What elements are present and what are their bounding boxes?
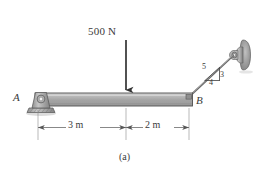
- beam-free-body-figure: 500 N A B 5 3 4 3 m 2 m (a): [0, 0, 261, 175]
- point-label-a: A: [13, 92, 20, 103]
- beam-ab: [35, 93, 193, 106]
- dimension-label-right: 2 m: [145, 120, 160, 130]
- cable-bc: [193, 55, 234, 93]
- slope-label-vertical: 3: [220, 71, 224, 79]
- figure-canvas: [0, 0, 261, 175]
- figure-caption: (a): [119, 152, 130, 162]
- dimension-label-left: 3 m: [68, 120, 83, 130]
- slope-label-hypotenuse: 5: [202, 63, 206, 71]
- load-label: 500 N: [88, 26, 116, 37]
- slope-label-horizontal: 4: [209, 79, 213, 87]
- point-label-b: B: [196, 95, 203, 106]
